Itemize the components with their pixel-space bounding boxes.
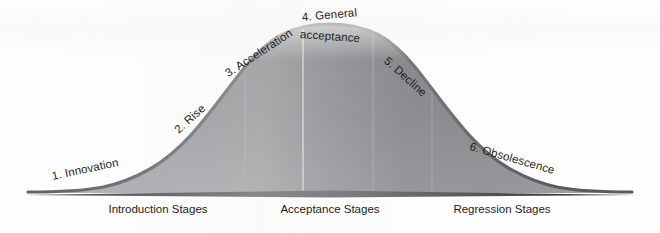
axis-group-regression-stages: Regression Stages (422, 203, 582, 215)
axis-group-acceptance-stages: Acceptance Stages (250, 203, 410, 215)
axis-group-introduction-stages: Introduction Stages (78, 203, 238, 215)
bell-curve-diagram: 1. Innovation 2. Rise 3. Acceleration 4.… (0, 0, 660, 233)
